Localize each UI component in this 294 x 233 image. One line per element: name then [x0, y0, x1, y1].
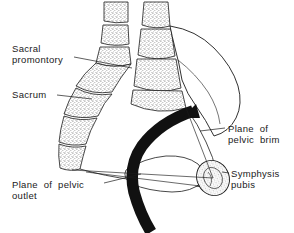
sacral-segment-s4	[131, 90, 186, 111]
lumbar-vertebra-upper	[104, 2, 128, 23]
label-sacral-promontory: Sacral promontory	[12, 43, 63, 65]
sacral-segment-s3	[134, 59, 181, 91]
label-symphysis-pubis: Symphysis pubis	[231, 168, 280, 190]
sacrum-segment-lower	[59, 116, 97, 145]
sacral-segment-s2	[138, 29, 175, 59]
sacrum-body-group	[59, 63, 131, 170]
label-plane-of-pelvic-brim: Plane of pelvic brim	[228, 123, 280, 145]
sacral-segment-s1	[142, 2, 170, 28]
sacrum-segment-upper	[76, 63, 131, 93]
sacrum-segment-coccyx	[59, 144, 86, 170]
lumbar-vertebra-lower	[96, 47, 131, 66]
label-sacrum: Sacrum	[12, 89, 47, 100]
lumbar-vertebra-mid	[101, 25, 129, 45]
pelvis-diagram: Sacral promontory Sacrum Plane of pelvic…	[0, 0, 294, 233]
label-plane-of-pelvic-outlet: Plane of pelvic outlet	[12, 179, 84, 201]
lumbar-vertebrae-group	[96, 2, 131, 66]
